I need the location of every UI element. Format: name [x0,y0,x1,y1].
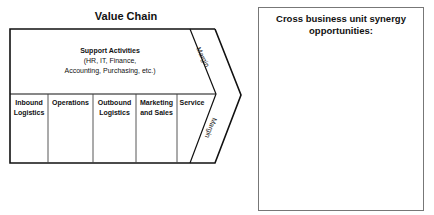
primary-marketing-sales: Marketing and Sales [136,98,177,118]
primary-operations: Operations [48,98,93,108]
primary-outbound-logistics: Outbound Logistics [93,98,136,118]
synergy-opportunities-box: Cross business unit synergy opportunitie… [258,7,424,211]
primary-inbound-logistics: Inbound Logistics [10,98,48,118]
label-line2: Logistics [10,108,48,118]
label-line2: and Sales [136,108,177,118]
label-line1: Outbound [93,98,136,108]
support-activities-line1: (HR, IT, Finance, [30,56,190,66]
label-line1: Service [177,98,207,108]
primary-service: Service [177,98,207,108]
label-line1: Marketing [136,98,177,108]
synergy-title: Cross business unit synergy opportunitie… [259,13,423,37]
support-activities: Support Activities (HR, IT, Finance, Acc… [30,46,190,76]
label-line1: Operations [48,98,93,108]
label-line2: Logistics [93,108,136,118]
label-line1: Inbound [10,98,48,108]
support-activities-line2: Accounting, Purchasing, etc.) [30,66,190,76]
support-activities-heading: Support Activities [30,46,190,56]
